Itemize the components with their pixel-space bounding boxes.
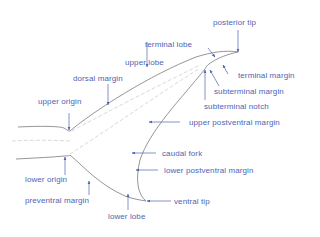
label-caudal-fork: caudal fork [162, 149, 202, 158]
label-preventral-margin: preventral margin [25, 196, 89, 205]
label-ventral-tip: ventral tip [174, 197, 210, 206]
label-subterminal-margin: subterminal margin [214, 87, 284, 96]
label-posterior-tip: posterior tip [213, 18, 256, 27]
label-subterminal-notch: subterminal notch [204, 102, 269, 111]
label-dorsal-margin: dorsal margin [73, 74, 123, 83]
label-terminal-lobe: terminal lobe [145, 40, 192, 49]
label-lower-lobe: lower lobe [108, 212, 145, 221]
label-upper-lobe: upper lobe [125, 58, 164, 67]
label-lower-origin: lower origin [25, 175, 67, 184]
label-upper-origin: upper origin [38, 97, 81, 106]
label-lower-postventral-margin: lower postventral margin [164, 166, 254, 175]
label-terminal-margin: terminal margin [238, 71, 295, 80]
label-upper-postventral-margin: upper postventral margin [189, 118, 280, 127]
